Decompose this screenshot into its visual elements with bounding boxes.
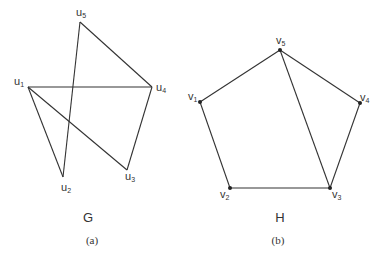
edge-u5-u4	[80, 22, 152, 87]
graph-diagram: u1u2u3u4u5G(a)v1v2v3v4v5H(b)	[0, 0, 380, 258]
node-label-v2: v2	[220, 188, 230, 201]
node-label-v5: v5	[276, 34, 286, 47]
node-label-u2: u2	[61, 181, 71, 194]
edge-v5-v3	[280, 50, 330, 188]
nodes-layer	[198, 48, 362, 190]
edge-u4-u3	[127, 87, 152, 170]
node-label-v3: v3	[332, 188, 342, 201]
edge-u1-u3	[28, 87, 127, 170]
labels-layer: u1u2u3u4u5G(a)v1v2v3v4v5H(b)	[14, 6, 370, 247]
graph-caption-G: (a)	[86, 234, 99, 247]
edge-u1-u2	[28, 87, 63, 177]
node-label-v4: v4	[360, 91, 370, 104]
node-v1	[198, 100, 202, 104]
graph-title-H: H	[275, 210, 284, 225]
edge-v3-v4	[330, 103, 360, 188]
edge-u5-u2	[63, 22, 80, 177]
edge-v1-v2	[200, 102, 230, 188]
node-label-u5: u5	[76, 6, 86, 19]
node-v5	[278, 48, 282, 52]
node-label-u4: u4	[156, 81, 166, 94]
node-v2	[228, 186, 232, 190]
graph-title-G: G	[83, 210, 93, 225]
node-label-u3: u3	[125, 170, 135, 183]
edge-v5-v1	[200, 50, 280, 102]
node-label-v1: v1	[188, 90, 198, 103]
edges-layer	[28, 22, 360, 188]
node-label-u1: u1	[14, 75, 24, 88]
graph-caption-H: (b)	[272, 234, 285, 247]
edge-v5-v4	[280, 50, 360, 103]
